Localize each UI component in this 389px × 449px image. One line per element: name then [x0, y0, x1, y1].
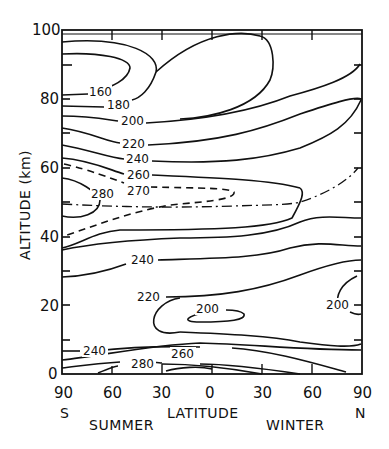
svg-text:90: 90 [54, 384, 73, 402]
svg-text:20: 20 [40, 297, 59, 315]
svg-text:60: 60 [103, 384, 122, 402]
svg-text:80: 80 [40, 90, 59, 108]
contour-label-240-surface: 240 [83, 344, 106, 358]
contour-label-260: 260 [127, 168, 150, 182]
contour-label-180: 180 [107, 98, 130, 112]
svg-text:60: 60 [303, 384, 322, 402]
y-axis-title: ALTITUDE (km) [17, 150, 33, 260]
hemisphere-n: N [355, 405, 366, 421]
svg-text:100: 100 [32, 21, 61, 39]
svg-text:30: 30 [253, 384, 272, 402]
contour-label-200: 200 [121, 114, 144, 128]
contour-label-280-surface: 280 [131, 357, 154, 371]
svg-text:90: 90 [353, 384, 372, 402]
contour-label-160: 160 [89, 85, 112, 99]
temperature-contour-chart: 160 180 200 220 240 260 270 280 240 220 … [0, 0, 389, 449]
svg-text:0: 0 [205, 384, 215, 402]
svg-text:0: 0 [48, 365, 58, 383]
contour-label-200-right: 200 [326, 298, 349, 312]
hemisphere-s: S [60, 405, 69, 421]
contour-label-220: 220 [122, 137, 145, 151]
season-summer: SUMMER [89, 417, 154, 433]
season-winter: WINTER [266, 417, 325, 433]
x-axis-title: LATITUDE [167, 405, 239, 421]
contour-label-280: 280 [91, 187, 114, 201]
x-tick-labels: 90 60 30 0 30 60 90 [54, 384, 372, 402]
contour-label-220-lower: 220 [137, 290, 160, 304]
contour-label-200-center: 200 [196, 302, 219, 316]
y-tick-labels: 100 80 60 40 20 0 [32, 21, 61, 383]
contour-label-240-lower: 240 [131, 253, 154, 267]
contour-label-270: 270 [127, 184, 150, 198]
contour-label-240: 240 [126, 152, 149, 166]
svg-text:60: 60 [40, 159, 59, 177]
svg-text:40: 40 [40, 228, 59, 246]
contour-label-260-surface: 260 [171, 347, 194, 361]
svg-text:30: 30 [152, 384, 171, 402]
